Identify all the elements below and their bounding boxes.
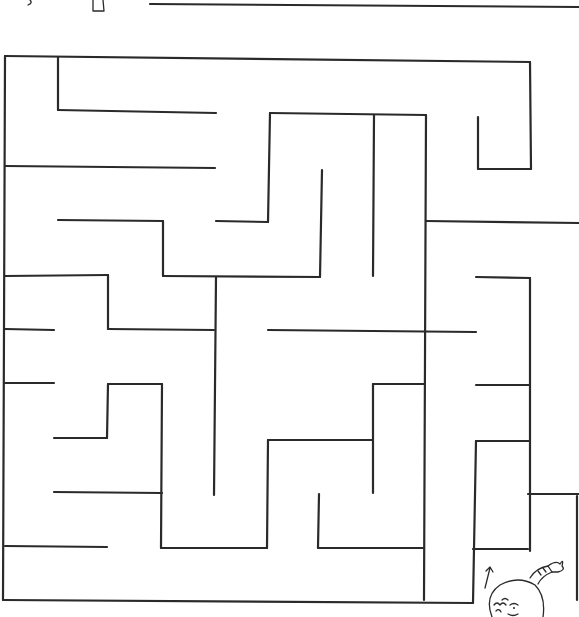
- maze-wall: [270, 113, 426, 115]
- top-cutoff-line: [150, 4, 579, 7]
- maze-wall: [163, 276, 320, 277]
- maze-wall: [216, 221, 268, 222]
- maze-wall: [424, 115, 426, 600]
- maze-wall: [3, 600, 473, 603]
- maze-wall: [108, 329, 214, 330]
- maze-wall: [268, 330, 476, 332]
- maze-wall: [373, 115, 374, 276]
- child-character-illustration: [489, 561, 563, 617]
- maze-wall: [161, 384, 162, 548]
- maze-wall: [318, 494, 319, 548]
- maze-canvas: [0, 0, 579, 617]
- maze-walls: [3, 56, 579, 603]
- maze-wall: [54, 492, 162, 493]
- maze-wall: [426, 221, 579, 223]
- maze-wall: [107, 384, 108, 438]
- maze-wall: [473, 441, 476, 603]
- start-arrow-icon: [485, 567, 493, 588]
- maze-wall: [214, 277, 216, 495]
- maze-puzzle: Maze Puzzle: [0, 0, 579, 617]
- maze-wall: [5, 275, 108, 276]
- maze-wall: [530, 62, 531, 169]
- maze-wall: [5, 166, 215, 168]
- maze-wall: [268, 113, 270, 222]
- maze-wall: [5, 56, 530, 62]
- top-trapezoid-fragment: [28, 0, 104, 11]
- maze-wall: [476, 277, 530, 278]
- maze-wall: [320, 170, 322, 277]
- maze-wall: [58, 220, 163, 221]
- maze-wall: [5, 546, 107, 547]
- top-cutoff-line-segment: [150, 4, 579, 7]
- maze-wall: [58, 110, 216, 113]
- maze-wall: [5, 329, 54, 330]
- maze-wall: [267, 440, 268, 548]
